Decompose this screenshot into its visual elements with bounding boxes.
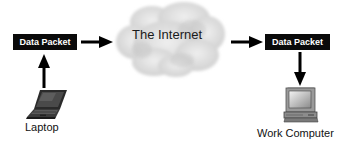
arrow-right-icon bbox=[81, 36, 113, 48]
arrow-up-icon bbox=[38, 54, 50, 88]
data-packet-right: Data Packet bbox=[265, 34, 330, 50]
data-packet-left: Data Packet bbox=[13, 34, 77, 50]
arrow-down-icon bbox=[294, 52, 306, 86]
laptop-icon bbox=[26, 89, 68, 119]
work-computer bbox=[283, 87, 319, 123]
laptop-label: Laptop bbox=[25, 121, 59, 133]
desktop-computer-icon bbox=[283, 87, 319, 123]
laptop bbox=[26, 89, 68, 119]
work-computer-label: Work Computer bbox=[257, 127, 334, 139]
internet-label: The Internet bbox=[132, 27, 202, 42]
arrow-right-icon bbox=[231, 36, 263, 48]
